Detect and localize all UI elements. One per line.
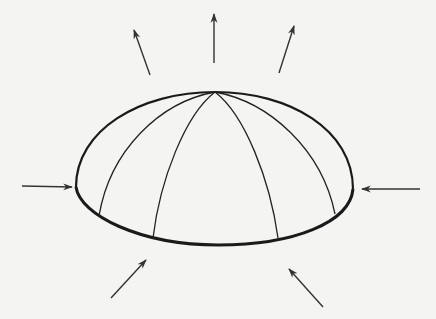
dome-outline-top	[76, 92, 353, 189]
dome-shell	[76, 92, 353, 245]
dome-base-curve	[76, 187, 353, 245]
diagram-canvas: Dome under radial forces	[0, 0, 436, 319]
arrow-icon-top-right	[279, 26, 294, 73]
dome-diagram	[0, 0, 436, 319]
arrow-icon-bottom-left	[111, 260, 146, 298]
arrow-icon-top-left	[134, 30, 150, 75]
arrow-icon-bottom-right	[289, 269, 323, 307]
meridian-lines	[99, 92, 335, 238]
arrow-icon-left	[22, 186, 72, 187]
